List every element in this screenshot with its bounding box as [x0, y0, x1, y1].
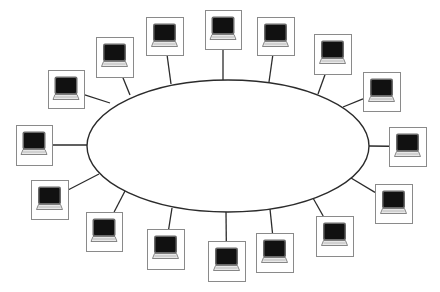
- laptop-node[interactable]: [390, 128, 427, 167]
- laptop-icon: [153, 236, 179, 259]
- laptop-icon: [152, 24, 178, 47]
- laptop-node[interactable]: [148, 230, 185, 270]
- network-link: [84, 95, 110, 103]
- laptop-icon: [263, 24, 289, 47]
- network-link: [313, 198, 323, 216]
- laptop-icon: [37, 187, 63, 210]
- network-diagram: [0, 0, 440, 292]
- laptop-icon: [369, 79, 395, 102]
- network-link: [123, 77, 130, 95]
- laptop-icon: [322, 223, 348, 246]
- laptop-node[interactable]: [364, 73, 401, 112]
- laptop-icon: [210, 17, 236, 40]
- laptop-node[interactable]: [315, 35, 352, 75]
- laptop-icon: [53, 77, 79, 100]
- network-link: [169, 208, 172, 229]
- laptop-icon: [214, 248, 240, 271]
- network-link: [343, 99, 363, 107]
- laptop-node[interactable]: [257, 234, 294, 273]
- laptop-node[interactable]: [258, 18, 295, 56]
- laptop-node[interactable]: [32, 181, 69, 220]
- network-link: [114, 191, 125, 212]
- laptop-node[interactable]: [97, 38, 134, 78]
- laptop-node[interactable]: [87, 213, 123, 252]
- network-link: [270, 209, 272, 233]
- laptop-node[interactable]: [209, 242, 246, 282]
- laptop-node[interactable]: [376, 185, 413, 224]
- laptop-node[interactable]: [206, 11, 242, 50]
- network-link: [269, 55, 273, 82]
- laptop-icon: [395, 134, 421, 157]
- network-ring: [87, 80, 369, 212]
- laptop-node[interactable]: [317, 217, 354, 257]
- network-link: [351, 178, 375, 192]
- laptop-node[interactable]: [49, 71, 85, 109]
- laptop-icon: [91, 219, 117, 242]
- laptop-icon: [320, 41, 346, 64]
- network-link: [167, 55, 171, 84]
- laptop-icon: [262, 240, 288, 263]
- laptop-icon: [381, 191, 407, 214]
- laptop-icon: [102, 44, 128, 67]
- laptop-icon: [21, 132, 47, 155]
- network-link: [68, 174, 99, 190]
- network-link: [318, 74, 325, 94]
- laptop-node[interactable]: [17, 126, 53, 166]
- laptop-node[interactable]: [147, 18, 184, 56]
